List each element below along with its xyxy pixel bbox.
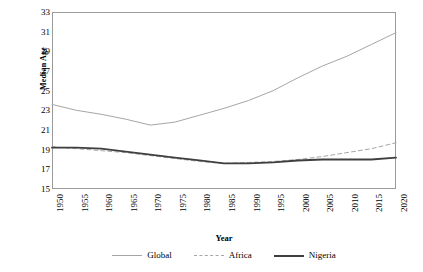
x-axis-tick-labels: 1950195519601965197019751980198519901995… [52, 192, 396, 234]
y-tick-label: 15 [20, 185, 50, 194]
x-tick-label: 1975 [179, 194, 188, 212]
legend-item-global[interactable]: Global [112, 250, 172, 260]
x-tick-label: 1980 [203, 194, 212, 212]
x-tick-label: 1965 [130, 194, 139, 212]
chart-legend: GlobalAfricaNigeria [52, 246, 396, 264]
series-line-global [52, 33, 396, 125]
x-tick-label: 1990 [253, 194, 262, 212]
x-tick-label: 1985 [228, 194, 237, 212]
y-tick-label: 23 [20, 106, 50, 115]
x-tick-label: 2000 [302, 194, 311, 212]
x-tick-label: 2015 [375, 194, 384, 212]
legend-swatch-africa [194, 253, 224, 258]
legend-item-nigeria[interactable]: Nigeria [274, 250, 336, 260]
y-tick-label: 25 [20, 86, 50, 95]
x-tick-label: 2020 [400, 194, 409, 212]
median-age-line-chart: Median Age 15171921232527293133 19501955… [0, 0, 423, 272]
x-tick-label: 1955 [81, 194, 90, 212]
x-tick-label: 2005 [326, 194, 335, 212]
legend-label: Nigeria [309, 250, 336, 260]
legend-label: Africa [229, 250, 252, 260]
x-tick-label: 1970 [154, 194, 163, 212]
x-tick-label: 2010 [351, 194, 360, 212]
x-tick-label: 1995 [277, 194, 286, 212]
y-tick-label: 17 [20, 165, 50, 174]
legend-item-africa[interactable]: Africa [194, 250, 252, 260]
x-tick-label: 1960 [105, 194, 114, 212]
series-layer [52, 12, 396, 189]
y-tick-label: 21 [20, 126, 50, 135]
y-tick-label: 19 [20, 145, 50, 154]
y-axis-tick-labels: 15171921232527293133 [20, 12, 50, 189]
x-axis-title: Year [52, 233, 396, 243]
legend-swatch-nigeria [274, 253, 304, 258]
y-tick-label: 33 [20, 8, 50, 17]
y-tick-label: 27 [20, 67, 50, 76]
legend-label: Global [147, 250, 172, 260]
y-tick-label: 29 [20, 47, 50, 56]
legend-swatch-global [112, 253, 142, 258]
y-tick-label: 31 [20, 27, 50, 36]
series-line-nigeria [52, 148, 396, 164]
x-tick-label: 1950 [56, 194, 65, 212]
